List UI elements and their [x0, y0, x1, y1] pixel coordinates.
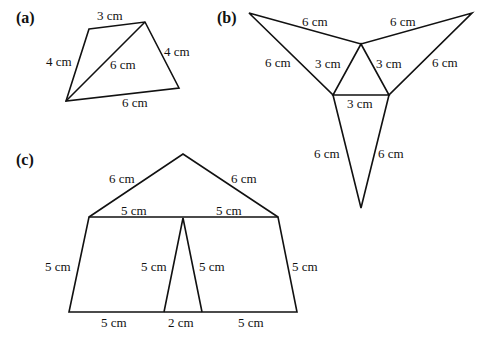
figure-b-edge-bottom-right: 6 cm — [378, 147, 404, 160]
figure-c-edge-bottom-left: 5 cm — [101, 316, 127, 329]
figure-c-edge-roof-right: 6 cm — [231, 172, 257, 185]
figure-a-edge-right: 4 cm — [164, 45, 190, 58]
figure-c-body — [69, 217, 297, 312]
figure-c-edge-roof-left: 6 cm — [109, 172, 135, 185]
figure-c-edge-side-right: 5 cm — [292, 260, 318, 273]
figure-b-edge-inner-left: 3 cm — [315, 57, 341, 70]
figure-c-edge-inner-right: 5 cm — [199, 260, 225, 273]
figure-c-edge-inner-left: 5 cm — [141, 260, 167, 273]
figure-b-edge-top-left: 6 cm — [302, 15, 328, 28]
figure-c-edge-bottom-mid: 2 cm — [168, 316, 194, 329]
figure-b-label: (b) — [217, 10, 237, 26]
figure-b-edge-bottom-left: 6 cm — [314, 147, 340, 160]
figure-a-edge-left: 4 cm — [46, 55, 72, 68]
figure-b-edge-left-outer: 6 cm — [265, 56, 291, 69]
figure-c-label: (c) — [16, 152, 34, 168]
figure-a-edge-top: 3 cm — [97, 9, 123, 22]
figure-a-edge-diagonal: 6 cm — [110, 58, 136, 71]
figure-b-edge-inner-bottom: 3 cm — [347, 97, 373, 110]
figure-c-edge-top-right: 5 cm — [216, 204, 242, 217]
figure-a-label: (a) — [16, 10, 35, 26]
figure-c-edge-side-left: 5 cm — [45, 260, 71, 273]
figure-b-edge-inner-right: 3 cm — [376, 57, 402, 70]
figure-c-inner-triangle — [164, 218, 202, 312]
figure-c-edge-top-left: 5 cm — [121, 204, 147, 217]
figure-a-edge-bottom: 6 cm — [122, 96, 148, 109]
figure-b-edge-right-outer: 6 cm — [432, 56, 458, 69]
figure-b-edge-top-right: 6 cm — [390, 15, 416, 28]
figure-c-edge-bottom-right: 5 cm — [238, 316, 264, 329]
